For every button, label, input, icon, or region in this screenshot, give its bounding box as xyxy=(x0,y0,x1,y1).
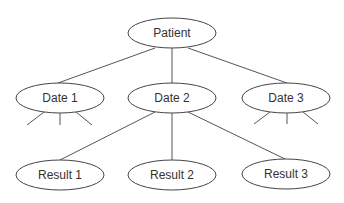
node-date3: Date 3 xyxy=(242,83,330,113)
node-label: Date 3 xyxy=(268,91,304,105)
node-result3: Result 3 xyxy=(242,159,330,189)
edge-patient-date3 xyxy=(188,48,287,83)
node-result2: Result 2 xyxy=(128,160,216,190)
date3-child-stubs xyxy=(254,112,318,124)
node-result1: Result 1 xyxy=(16,160,104,190)
edge-date2-result1 xyxy=(60,112,155,160)
node-patient: Patient xyxy=(128,18,216,48)
edge-patient-date1 xyxy=(58,48,155,83)
node-label: Result 1 xyxy=(38,168,82,182)
date1-child-stubs xyxy=(27,112,92,125)
patient-tree-diagram: Patient Date 1 Date 2 Date 3 Result 1 Re… xyxy=(0,0,344,203)
node-label: Date 1 xyxy=(42,91,78,105)
node-date2: Date 2 xyxy=(128,83,216,113)
edge-date2-result3 xyxy=(188,112,287,160)
node-label: Date 2 xyxy=(154,91,190,105)
node-label: Patient xyxy=(153,26,191,40)
node-date1: Date 1 xyxy=(16,83,104,113)
node-label: Result 2 xyxy=(150,168,194,182)
node-label: Result 3 xyxy=(264,167,308,181)
